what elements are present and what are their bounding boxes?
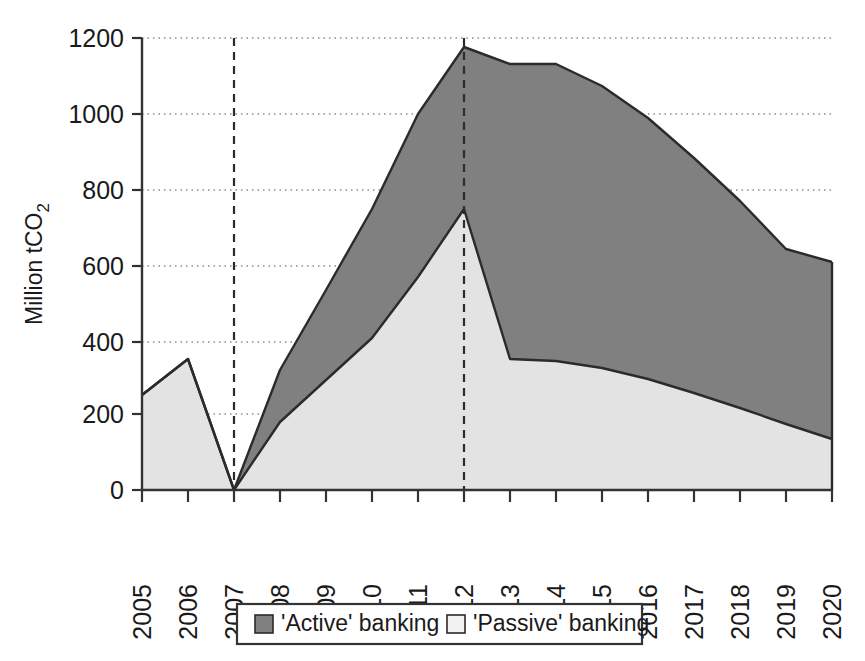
x-tick-label: 2017 <box>680 584 708 640</box>
y-axis-title-subscript: 2 <box>34 203 53 212</box>
legend-label-active: 'Active' banking <box>281 610 439 636</box>
y-tick-label: 1200 <box>68 24 124 52</box>
y-tick-label: 600 <box>82 252 124 280</box>
x-tick-label: 2005 <box>128 584 156 640</box>
chart-legend: 'Active' banking 'Passive' banking <box>237 604 649 644</box>
x-tick-label: 2019 <box>772 584 800 640</box>
y-axis-title-main: Million tCO <box>21 213 47 325</box>
y-tick-label: 1000 <box>68 100 124 128</box>
legend-label-passive: 'Passive' banking <box>473 610 649 636</box>
x-tick-label: 2018 <box>726 584 754 640</box>
y-tick-label: 400 <box>82 328 124 356</box>
y-tick-label: 800 <box>82 176 124 204</box>
x-tick-label: 2020 <box>818 584 846 640</box>
y-tick-label: 0 <box>110 476 124 504</box>
y-tick-label: 200 <box>82 400 124 428</box>
x-tick-label: 2006 <box>174 584 202 640</box>
stacked-area-chart: 1200 1000 800 600 400 200 0 Million tCO2… <box>0 0 865 661</box>
legend-swatch-active-icon <box>255 615 273 633</box>
legend-swatch-passive-icon <box>447 615 465 633</box>
